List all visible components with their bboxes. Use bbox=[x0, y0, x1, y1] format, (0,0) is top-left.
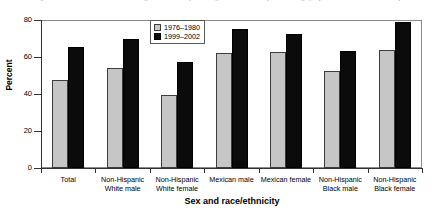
bar bbox=[123, 39, 139, 169]
bar bbox=[379, 50, 395, 168]
chart-legend: 1976–19801999–2002 bbox=[150, 20, 205, 44]
bar bbox=[52, 80, 68, 168]
y-tick-label: 0 bbox=[2, 164, 32, 172]
legend-item: 1999–2002 bbox=[154, 32, 200, 41]
legend-swatch-icon bbox=[154, 33, 161, 40]
y-tick-0 bbox=[34, 168, 41, 169]
x-tick bbox=[368, 168, 369, 173]
y-tick-label-wrap: 60 bbox=[0, 53, 32, 61]
bar bbox=[395, 22, 411, 168]
chart-title: Figure 4. Prevalence of overweight or ob… bbox=[0, 0, 434, 1]
x-category-label: Mexican male bbox=[204, 175, 258, 184]
y-tick-label: 40 bbox=[2, 90, 32, 98]
x-category-label: Non-Hispanic White female bbox=[150, 175, 204, 193]
y-axis-line bbox=[41, 20, 42, 169]
x-category-label: Total bbox=[41, 175, 95, 184]
x-axis-line bbox=[41, 168, 423, 169]
bar bbox=[232, 29, 248, 168]
y-tick-80 bbox=[34, 20, 41, 21]
bar bbox=[216, 53, 232, 168]
bar bbox=[177, 62, 193, 168]
chart-figure: Figure 4. Prevalence of overweight or ob… bbox=[0, 0, 434, 211]
y-tick-20 bbox=[34, 131, 41, 132]
legend-label: 1976–1980 bbox=[164, 24, 200, 32]
x-tick bbox=[313, 168, 314, 173]
bar bbox=[161, 95, 177, 168]
x-tick bbox=[204, 168, 205, 173]
x-tick bbox=[41, 168, 42, 173]
bar bbox=[324, 71, 340, 168]
x-axis-title: Sex and race/ethnicity bbox=[41, 196, 423, 206]
y-tick-label-wrap: 80 bbox=[0, 16, 32, 24]
y-tick-label-wrap: 20 bbox=[0, 127, 32, 135]
bar bbox=[270, 52, 286, 168]
bar bbox=[107, 68, 123, 168]
x-tick bbox=[150, 168, 151, 173]
y-tick-label-wrap: 0 bbox=[0, 164, 32, 172]
x-tick bbox=[422, 168, 423, 173]
bar bbox=[286, 34, 302, 168]
y-tick-label: 20 bbox=[2, 127, 32, 135]
legend-item: 1976–1980 bbox=[154, 23, 200, 32]
x-category-label: Mexican female bbox=[259, 175, 313, 184]
x-tick bbox=[95, 168, 96, 173]
x-category-label: Non-Hispanic Black female bbox=[368, 175, 422, 193]
x-category-label: Non-Hispanic White male bbox=[95, 175, 149, 193]
y-tick-label: 80 bbox=[2, 16, 32, 24]
bar bbox=[340, 51, 356, 168]
y-tick-label: 60 bbox=[2, 53, 32, 61]
y-tick-60 bbox=[34, 57, 41, 58]
x-category-label: Non-Hispanic Black male bbox=[313, 175, 367, 193]
legend-label: 1999–2002 bbox=[164, 33, 200, 41]
bar bbox=[68, 47, 84, 168]
y-tick-40 bbox=[34, 94, 41, 95]
legend-swatch-icon bbox=[154, 24, 161, 31]
x-tick bbox=[259, 168, 260, 173]
y-tick-label-wrap: 40 bbox=[0, 90, 32, 98]
